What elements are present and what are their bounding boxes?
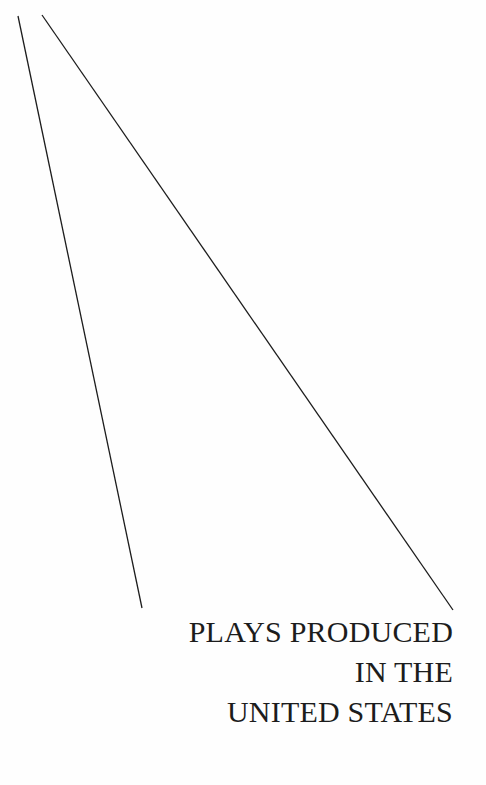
title-line-2: IN THE — [189, 652, 453, 692]
right-diagonal-line — [42, 15, 453, 610]
title-line-1: PLAYS PRODUCED — [189, 612, 453, 652]
left-diagonal-line — [18, 16, 142, 608]
book-page: PLAYS PRODUCED IN THE UNITED STATES — [0, 0, 486, 785]
section-title: PLAYS PRODUCED IN THE UNITED STATES — [189, 612, 453, 732]
title-line-3: UNITED STATES — [189, 692, 453, 732]
